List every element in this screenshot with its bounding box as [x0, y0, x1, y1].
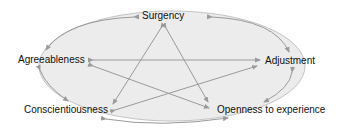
- personality-diagram: Surgency Agreeableness Adjustment Consci…: [0, 0, 347, 131]
- node-openness-to-experience: Openness to experience: [217, 104, 325, 116]
- node-conscientiousness: Conscientiousness: [24, 104, 108, 116]
- node-agreeableness: Agreeableness: [18, 54, 85, 66]
- node-surgency: Surgency: [142, 10, 184, 22]
- node-adjustment: Adjustment: [265, 55, 315, 67]
